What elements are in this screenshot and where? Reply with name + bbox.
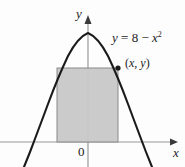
y-axis-arrowhead (85, 15, 92, 24)
point-close-paren: ) (146, 56, 150, 70)
x-axis-label: x (173, 146, 179, 159)
figure-parabola-rectangle: y x 0 y = 8 − x2 (x, y) (0, 0, 185, 167)
origin-label: 0 (78, 145, 85, 158)
equation-exponent: 2 (158, 30, 162, 39)
y-axis-label: y (76, 7, 82, 20)
point-marker (115, 65, 120, 70)
inscribed-rectangle (57, 68, 118, 142)
point-coordinate-label: (x, y) (125, 57, 150, 69)
equation-label: y = 8 − x2 (112, 31, 162, 44)
equation-equals: = (118, 30, 132, 45)
figure-canvas (0, 0, 185, 167)
equation-minus: − (138, 30, 152, 45)
